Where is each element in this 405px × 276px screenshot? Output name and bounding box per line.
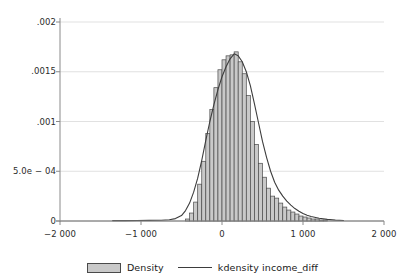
- density-swatch-icon: [87, 263, 121, 273]
- legend: Density kdensity income_diff: [0, 262, 405, 273]
- legend-label-kdensity: kdensity income_diff: [218, 262, 318, 273]
- legend-item-density: Density: [87, 262, 164, 273]
- legend-label-density: Density: [127, 262, 164, 273]
- plot-area: [0, 0, 405, 276]
- legend-item-kdensity: kdensity income_diff: [178, 262, 318, 273]
- density-histogram-figure: .002 .0015 .001 5.0e − 04 0 −2 000 −1 00…: [0, 0, 405, 276]
- kdensity-line-icon: [178, 267, 212, 268]
